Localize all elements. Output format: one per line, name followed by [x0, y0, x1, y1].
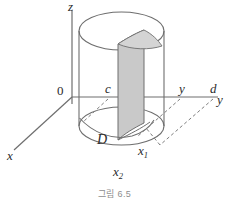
x-axis-label: x	[6, 148, 13, 163]
tick-label-y: y	[177, 81, 185, 96]
point-label-x1-subscript: 1	[144, 150, 148, 160]
region-D-label: D	[96, 132, 107, 147]
z-axis-label: z	[67, 0, 73, 14]
top-slice-sliver	[118, 30, 162, 49]
point-label-x2-subscript: 2	[119, 171, 124, 181]
origin-label: 0	[57, 83, 64, 98]
dashed-line-from-d	[160, 99, 213, 145]
tick-label-c: c	[105, 81, 111, 96]
figure-caption: 그림 6.5	[0, 187, 229, 200]
point-label-x2: x2	[112, 164, 124, 181]
cross-section-slice-group	[118, 30, 162, 140]
axis-group	[14, 10, 218, 150]
solid-of-revolution-diagram: 0 z y x c y d D x1 x2	[0, 0, 229, 202]
point-label-x1: x1	[137, 143, 148, 160]
figure-container: 0 z y x c y d D x1 x2 그림 6.5	[0, 0, 229, 202]
x-axis-line	[14, 97, 72, 150]
tick-label-d: d	[210, 81, 217, 96]
